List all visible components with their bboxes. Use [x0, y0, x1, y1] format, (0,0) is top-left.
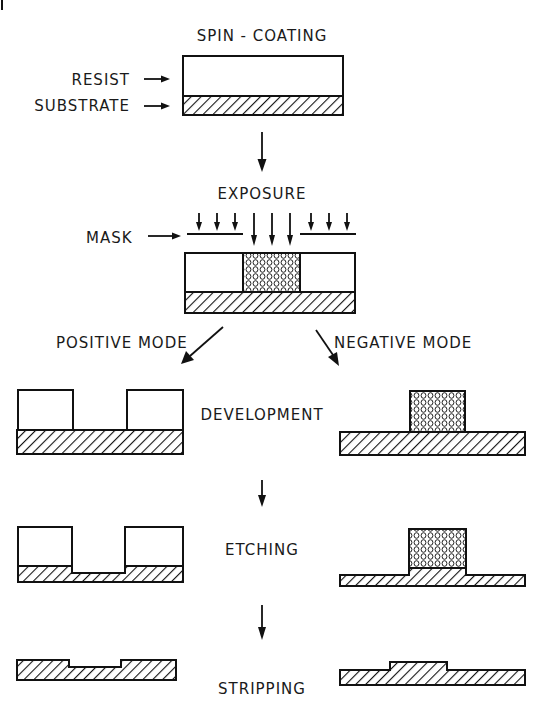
lithography-diagram: SPIN - COATING RESIST SUBSTRATE EXPOSURE…	[0, 0, 544, 703]
negative-stripping	[340, 662, 525, 685]
negative-etching	[340, 529, 525, 586]
resist-pointer-arrow-icon	[144, 76, 170, 83]
substrate-layer	[185, 292, 355, 313]
mask-label: MASK	[86, 229, 133, 247]
step-label-stripping: STRIPPING	[218, 680, 306, 698]
step-etching: ETCHING	[18, 527, 525, 586]
negative-development	[340, 391, 525, 455]
mask-pointer-arrow-icon	[148, 233, 181, 240]
resist-label: RESIST	[71, 71, 130, 89]
positive-development	[17, 390, 183, 454]
step-exposure: EXPOSURE MASK	[86, 185, 356, 313]
step-stripping: STRIPPING	[17, 660, 525, 698]
step-label-exposure: EXPOSURE	[217, 185, 306, 203]
positive-etching	[18, 527, 183, 582]
flow-arrow-down-icon	[258, 480, 266, 507]
flow-arrow-down-icon	[258, 605, 266, 640]
substrate-layer	[183, 96, 343, 115]
flow-arrow-down-icon	[258, 132, 267, 172]
resist-layer	[183, 56, 343, 96]
step-label-development: DEVELOPMENT	[200, 406, 323, 424]
step-spin-coating: SPIN - COATING RESIST SUBSTRATE	[34, 27, 343, 115]
positive-stripping	[17, 660, 176, 680]
step-label-spin-coating: SPIN - COATING	[197, 27, 328, 45]
substrate-label: SUBSTRATE	[34, 97, 130, 115]
branch-label-negative: NEGATIVE MODE	[334, 334, 472, 352]
substrate-pointer-arrow-icon	[144, 103, 170, 110]
branch-label-positive: POSITIVE MODE	[56, 334, 188, 352]
step-label-etching: ETCHING	[225, 541, 299, 559]
exposed-resist-region	[243, 253, 300, 292]
step-development: DEVELOPMENT	[17, 390, 525, 455]
light-arrows-icon	[196, 213, 350, 246]
